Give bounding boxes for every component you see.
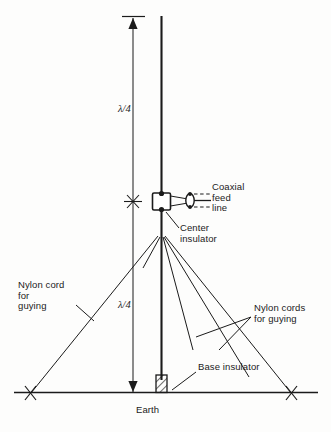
- lambda-quarter-bottom-label: λ/4: [118, 299, 131, 310]
- center-insulator-leader: [166, 212, 179, 228]
- base-insulator-block: [156, 375, 167, 393]
- base-insulator-leader: [172, 372, 196, 390]
- coaxial-feed-line-label: Coaxial feed line: [212, 182, 244, 214]
- earth-label: Earth: [136, 405, 159, 416]
- nylon-cord-left-leader: [76, 305, 94, 321]
- nylon-cords-right-leader-a: [196, 317, 251, 337]
- antenna-diagram-figure: λ/4 λ/4 Coaxial feed line Center insulat…: [0, 0, 331, 432]
- guy-wire-fan-right-outer: [164, 237, 249, 377]
- center-insulator-label: Center insulator: [180, 223, 217, 244]
- nylon-cords-right-leader-b: [219, 317, 251, 350]
- guy-wire-fan-right-inner: [163, 237, 193, 350]
- nylon-cords-right-label: Nylon cords for guying: [254, 303, 305, 324]
- antenna-diagram-svg: [0, 0, 331, 432]
- center-insulator-block: [153, 191, 171, 212]
- base-insulator-label: Base insulator: [198, 362, 260, 373]
- coax-connector: [186, 192, 194, 209]
- dimension-top-arrowhead: [128, 18, 137, 29]
- guy-wire-left-main: [31, 236, 158, 393]
- guy-wire-fan-left: [143, 237, 160, 268]
- nylon-cord-left-label: Nylon cord for guying: [18, 280, 64, 312]
- lambda-quarter-top-label: λ/4: [118, 103, 131, 114]
- dimension-bottom-arrowhead: [128, 381, 137, 392]
